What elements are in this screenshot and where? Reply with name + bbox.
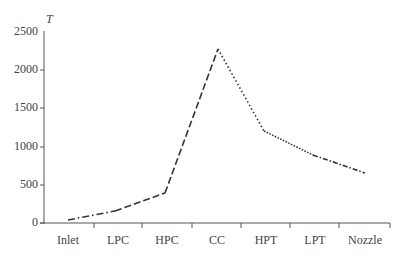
segment-lpc-hpc bbox=[115, 193, 165, 211]
x-tick-label: HPC bbox=[143, 233, 191, 248]
y-tick-label: 0 bbox=[2, 215, 38, 230]
segment-hpc-cc bbox=[165, 49, 218, 193]
segment-hpt-lpt bbox=[264, 131, 313, 155]
y-tick-label: 1000 bbox=[2, 139, 38, 154]
x-ticks bbox=[94, 223, 390, 228]
x-tick-label: LPC bbox=[94, 233, 142, 248]
y-tick-label: 2500 bbox=[2, 24, 38, 39]
segment-cc-hpt bbox=[218, 49, 264, 131]
x-tick-label: Nozzle bbox=[341, 233, 389, 248]
x-tick-label: Inlet bbox=[44, 233, 92, 248]
segment-inlet-lpc bbox=[68, 211, 115, 220]
y-tick-label: 1500 bbox=[2, 100, 38, 115]
y-ticks bbox=[40, 70, 44, 223]
data-series bbox=[68, 49, 365, 220]
y-axis-title: T bbox=[46, 12, 53, 27]
x-tick-label: LPT bbox=[291, 233, 339, 248]
y-tick-label: 500 bbox=[2, 177, 38, 192]
y-tick-label: 2000 bbox=[2, 62, 38, 77]
segment-lpt-nozzle bbox=[313, 155, 365, 173]
line-chart bbox=[0, 0, 400, 260]
x-tick-label: HPT bbox=[242, 233, 290, 248]
x-tick-label: CC bbox=[193, 233, 241, 248]
